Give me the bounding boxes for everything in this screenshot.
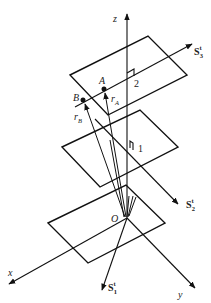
right-angle-mark-1 [130, 141, 133, 150]
point-A [102, 87, 107, 92]
y-axis [127, 218, 195, 288]
s2-axis [95, 119, 178, 204]
point-B [81, 98, 86, 103]
vector-rB [85, 104, 125, 217]
vector-aux-1 [110, 140, 124, 217]
origin-label: O [111, 213, 118, 224]
x-axis-label: x [7, 267, 13, 278]
diagram-canvas: z x y O 2 1 A B rA rB St3 St2 St1 [0, 0, 211, 303]
plane-bottom [48, 185, 165, 263]
rB-label: rB [74, 111, 82, 124]
plane-2-label: 2 [134, 78, 139, 89]
y-axis-label: y [177, 289, 183, 300]
z-axis-label: z [112, 13, 117, 24]
point-A-label: A [98, 75, 106, 86]
right-angle-mark-2 [127, 69, 134, 76]
point-B-label: B [73, 92, 79, 103]
s2-label: St2 [186, 197, 195, 212]
plane-1-label: 1 [138, 143, 143, 154]
plane-2 [70, 36, 187, 115]
s3-label: St3 [194, 44, 204, 59]
s3-axis [75, 44, 192, 107]
s1-label: St1 [108, 280, 117, 295]
rA-label: rA [111, 93, 119, 106]
x-axis [9, 218, 127, 284]
